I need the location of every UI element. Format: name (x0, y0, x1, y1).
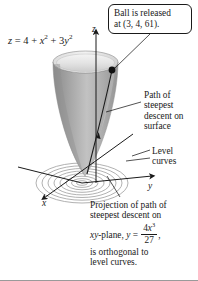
projection-note: Projection of path of steepest descent o… (90, 200, 198, 268)
release-point-marker (109, 67, 116, 74)
projection-line-2: steepest descent on (90, 210, 198, 220)
equation-equals: = (15, 35, 21, 46)
equation-exponent-x: 2 (44, 33, 48, 41)
release-callout-box: Ball is released at (3, 4, 61). (108, 4, 192, 34)
equation-plus-2: + (51, 35, 57, 46)
level-curves-label: Level curves (152, 146, 198, 167)
surface-equation: z = 4 + x2 + 3y2 (8, 33, 73, 46)
projection-variable: y (126, 230, 130, 240)
fraction-numerator: 4x3 (141, 222, 157, 235)
projection-fraction: 4x3 27 (141, 222, 157, 245)
projection-equals: = (133, 230, 138, 240)
numerator-exponent: 3 (152, 221, 155, 228)
x-axis-label: x (42, 198, 46, 209)
projection-comma: , (158, 230, 160, 240)
projection-line-4: is orthogonal to (90, 247, 198, 257)
paraboloid-surface (53, 51, 118, 176)
projection-line-1: Projection of path of (90, 200, 198, 210)
z-axis-label: z (92, 24, 96, 35)
projection-formula-line: xy-plane, y = 4x3 27 , (90, 222, 198, 245)
callout-line-2: at (3, 4, 61). (114, 19, 187, 30)
y-axis-label: y (148, 181, 152, 192)
equation-constant: 4 (23, 35, 28, 46)
fraction-denominator: 27 (141, 235, 157, 245)
equation-lhs: z (8, 35, 12, 46)
path-of-steepest-descent-label: Path of steepest descent on surface (144, 90, 198, 132)
equation-exponent-y: 2 (69, 33, 73, 41)
callout-line-1: Ball is released (114, 8, 187, 19)
y-axis (82, 176, 152, 183)
equation-plus-1: + (31, 35, 37, 46)
projection-line-5: level curves. (90, 257, 198, 267)
plane-word: -plane, (98, 230, 124, 240)
